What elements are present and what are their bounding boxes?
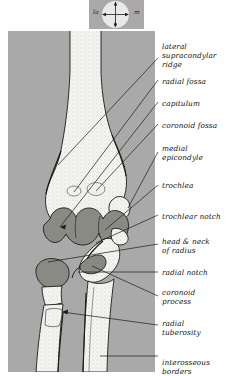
radius-head bbox=[36, 258, 69, 288]
compass-label-lateral: la bbox=[93, 9, 99, 15]
label-trochlear-notch: trochlear notch bbox=[162, 212, 221, 221]
label-head-and-neck-of-radius: head & neck of radius bbox=[162, 237, 210, 255]
label-radial-notch: radial notch bbox=[162, 268, 208, 277]
orientation-compass: la m l bbox=[89, 0, 144, 29]
ulna-shaft bbox=[83, 279, 114, 372]
label-capitulum: capitulum bbox=[162, 99, 200, 108]
label-radial-tuberosity: radial tuberosity bbox=[162, 319, 201, 337]
label-coronoid-process: coronoid process bbox=[162, 288, 195, 306]
radial-tuberosity bbox=[45, 309, 62, 327]
compass-label-medial: m bbox=[134, 9, 140, 15]
label-coronoid-fossa: coronoid fossa bbox=[162, 121, 217, 130]
elbow-illustration-panel bbox=[8, 31, 155, 372]
label-column: lateral supracondylar ridge radial fossa… bbox=[160, 31, 229, 372]
label-medial-epicondyle: medial epicondyle bbox=[162, 144, 203, 162]
elbow-bones-drawing bbox=[8, 31, 155, 372]
label-trochlea: trochlea bbox=[162, 181, 193, 190]
compass-label-inferior: l bbox=[114, 21, 116, 27]
label-lateral-supracondylar-ridge: lateral supracondylar ridge bbox=[162, 42, 216, 70]
label-interosseous-borders: interosseous borders bbox=[162, 358, 210, 376]
label-radial-fossa: radial fossa bbox=[162, 77, 206, 86]
